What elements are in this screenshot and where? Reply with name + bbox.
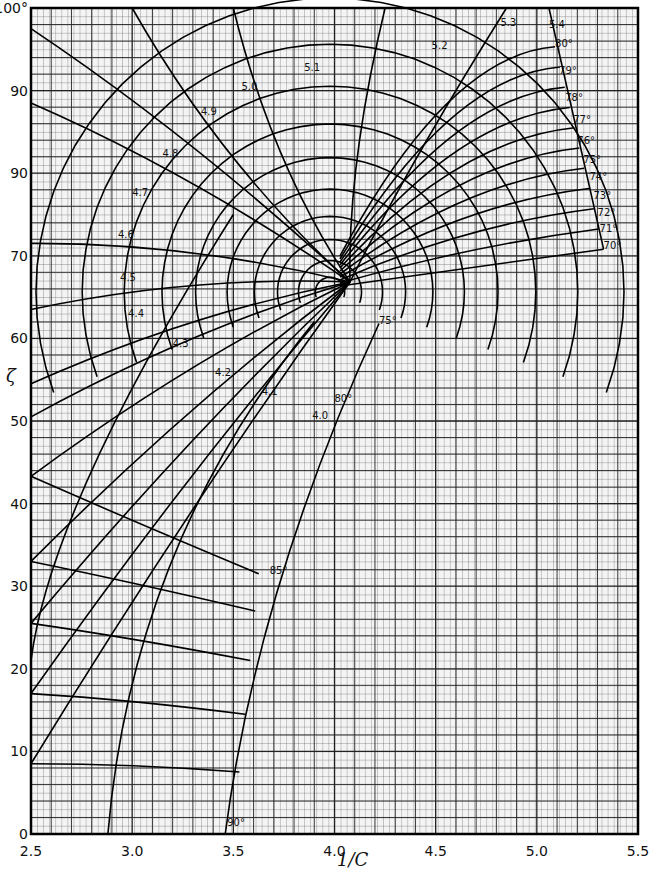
curve-label: 72° <box>598 207 616 218</box>
curve-label: 77° <box>573 114 591 125</box>
curve-label: 90° <box>227 817 245 828</box>
y-tick-label: 20 <box>10 661 28 677</box>
curve-label: 4.5 <box>120 272 136 283</box>
y-tick-label: 90 <box>10 83 28 99</box>
y-axis-ticks: 0102030405060709090100° <box>0 0 28 842</box>
curve-label: 4.2 <box>215 367 231 378</box>
x-tick-label: 3.5 <box>222 843 244 859</box>
y-tick-label: 90 <box>10 165 28 181</box>
y-tick-label: 100° <box>0 0 28 16</box>
curve-label: 5.3 <box>500 17 516 28</box>
curve-label: 70° <box>604 240 622 251</box>
curve-label: 76° <box>577 135 595 146</box>
curve-label: 4.1 <box>262 386 278 397</box>
curve-label: 4.9 <box>201 106 217 117</box>
y-tick-label: 30 <box>10 578 28 594</box>
nomogram-chart: 5.480°79°78°77°76°75°74°73°72°71°70°5.35… <box>0 0 650 874</box>
x-axis-label: 1/C <box>337 849 369 870</box>
curve-label: 4.0 <box>312 410 328 421</box>
y-tick-label: 10 <box>10 743 28 759</box>
curve-label: 4.8 <box>163 148 179 159</box>
y-tick-label: 70 <box>10 248 28 264</box>
x-tick-label: 2.5 <box>20 843 42 859</box>
y-tick-label: 40 <box>10 496 28 512</box>
curve-label: 4.7 <box>132 187 148 198</box>
curve-label: 5.4 <box>549 19 565 30</box>
curve-label: 73° <box>593 190 611 201</box>
curve-label: 5.0 <box>241 81 257 92</box>
curve-label: 80° <box>555 38 573 49</box>
x-tick-label: 5.5 <box>627 843 649 859</box>
curve-label: 74° <box>589 171 607 182</box>
curve-label: 75° <box>583 154 601 165</box>
curve-label: 5.1 <box>304 62 320 73</box>
y-tick-label: 50 <box>10 413 28 429</box>
curve-label: 75° <box>379 315 397 326</box>
y-axis-label: ζ <box>6 365 17 386</box>
curve-label: 71° <box>600 223 618 234</box>
x-tick-label: 4.5 <box>425 843 447 859</box>
curve-label: 4.6 <box>118 229 134 240</box>
x-tick-label: 5.0 <box>526 843 548 859</box>
x-tick-label: 3.0 <box>121 843 143 859</box>
y-tick-label: 60 <box>10 330 28 346</box>
x-axis-ticks: 2.53.03.54.04.55.05.5 <box>20 843 649 859</box>
curve-label: 80° <box>335 393 353 404</box>
curve-label: 85° <box>270 565 288 576</box>
curve-label: 4.3 <box>173 338 189 349</box>
curve-label: 79° <box>559 65 577 76</box>
curve-label: 5.2 <box>432 40 448 51</box>
curve-label: 78° <box>565 92 583 103</box>
curve-label: 4.4 <box>128 308 144 319</box>
y-tick-label: 0 <box>19 826 28 842</box>
